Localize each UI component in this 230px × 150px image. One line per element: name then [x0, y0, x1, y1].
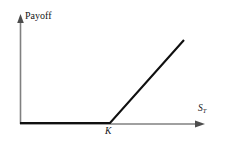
y-axis-arrowhead-icon: [17, 14, 24, 23]
payoff-curve: [20, 40, 184, 123]
call-option-payoff-figure: Payoff ST K: [0, 0, 230, 150]
x-axis-label-subscript: T: [203, 107, 207, 114]
y-axis-label: Payoff: [25, 11, 51, 21]
x-axis-arrowhead-icon: [195, 120, 205, 127]
x-axis-label: ST: [198, 104, 206, 114]
strike-price-label: K: [105, 127, 111, 137]
payoff-plot-svg: [0, 0, 230, 150]
